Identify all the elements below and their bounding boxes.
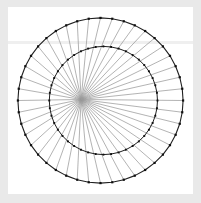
inner-circle-marker-6 [62,64,64,66]
outer-circle-marker-21 [88,181,90,183]
outer-circle-marker-0 [99,17,101,19]
inner-circle-marker-23 [110,153,112,155]
inner-circle-marker-26 [132,145,134,147]
outer-circle-marker-18 [55,169,57,171]
outer-circle-marker-43 [111,18,113,20]
inner-circle-marker-41 [125,50,127,52]
outer-circle-marker-6 [37,45,39,47]
outer-circle-marker-16 [37,153,39,155]
inner-circle-marker-11 [48,100,50,102]
outer-circle-marker-33 [182,99,184,101]
inner-circle-marker-4 [73,54,75,56]
inner-circle-marker-34 [156,92,158,94]
inner-circle-marker-10 [49,92,51,94]
outer-circle-marker-30 [175,134,177,136]
outer-circle-marker-23 [111,181,113,183]
inner-circle-marker-7 [57,70,59,72]
outer-circle-marker-3 [65,24,67,26]
outer-circle-marker-25 [134,175,136,177]
outer-circle-marker-2 [76,20,78,22]
inner-circle-marker-28 [143,135,145,137]
inner-circle-marker-24 [118,151,120,153]
inner-circle-marker-3 [80,50,82,52]
outer-circle-marker-14 [24,134,26,136]
outer-circle-marker-37 [169,55,171,57]
inner-circle-marker-2 [87,48,89,50]
inner-circle-marker-37 [148,70,150,72]
inner-circle-marker-8 [53,77,55,79]
inner-circle-marker-22 [102,154,104,156]
outer-circle-marker-26 [144,169,146,171]
outer-circle-marker-41 [134,24,136,26]
outer-circle-marker-5 [45,37,47,39]
inner-circle-marker-13 [51,115,53,117]
inner-circle-marker-25 [125,149,127,151]
outer-circle-marker-22 [99,182,101,184]
inner-circle-marker-21 [95,153,97,155]
outer-circle-marker-17 [45,162,47,164]
outer-circle-marker-1 [88,18,90,20]
inner-circle-marker-35 [154,84,156,86]
outer-circle-marker-39 [153,37,155,39]
outer-circle-marker-32 [181,111,183,113]
inner-circle-marker-43 [110,46,112,48]
outer-circle-marker-9 [20,76,22,78]
inner-circle-marker-15 [57,129,59,131]
faint-horizontal-band [8,41,193,44]
outer-circle-marker-8 [24,65,26,67]
inner-circle-marker-1 [95,46,97,48]
outer-circle-marker-29 [169,144,171,146]
inner-circle-marker-9 [51,84,53,86]
inner-circle-marker-19 [80,149,82,151]
outer-circle-marker-40 [144,30,146,32]
inner-circle-marker-27 [138,140,140,142]
inner-circle-marker-42 [118,48,120,50]
outer-circle-marker-34 [181,88,183,90]
inner-circle-marker-0 [102,45,104,47]
outer-circle-marker-10 [18,88,20,90]
outer-circle-marker-19 [65,175,67,177]
outer-circle-marker-35 [179,76,181,78]
outer-circle-marker-28 [162,153,164,155]
figure-root [0,0,201,203]
inner-circle-marker-40 [132,54,134,56]
outer-circle-marker-20 [76,179,78,181]
outer-circle-marker-7 [30,55,32,57]
inner-circle-marker-20 [87,151,89,153]
inner-circle-marker-36 [152,77,154,79]
string-art-plot [0,0,201,203]
inner-circle-marker-31 [154,115,156,117]
outer-circle-marker-4 [55,30,57,32]
inner-circle-marker-17 [67,140,69,142]
inner-circle-marker-16 [62,135,64,137]
outer-circle-marker-36 [175,65,177,67]
outer-circle-marker-31 [179,123,181,125]
inner-circle-marker-32 [156,107,158,109]
inner-circle-marker-38 [143,64,145,66]
outer-circle-marker-38 [162,45,164,47]
outer-circle-marker-12 [18,111,20,113]
outer-circle-marker-15 [30,144,32,146]
inner-circle-marker-39 [138,59,140,61]
outer-circle-marker-24 [123,179,125,181]
outer-circle-marker-27 [153,162,155,164]
outer-circle-marker-42 [123,20,125,22]
inner-circle-marker-33 [157,100,159,102]
inner-circle-marker-12 [49,107,51,109]
inner-circle-marker-14 [53,122,55,124]
outer-circle-marker-13 [20,123,22,125]
inner-circle-marker-5 [67,59,69,61]
inner-circle-marker-18 [73,145,75,147]
inner-circle-marker-30 [152,122,154,124]
outer-circle-marker-11 [17,99,19,101]
inner-circle-marker-29 [148,129,150,131]
